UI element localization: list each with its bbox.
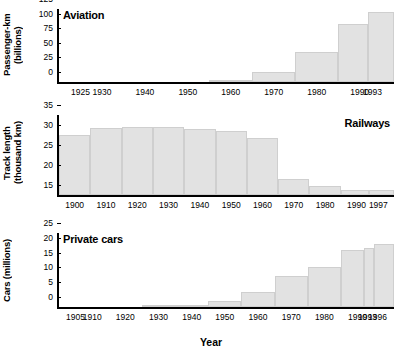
- x-axis-tick-label: 1970: [282, 309, 301, 322]
- x-axis-tick-label: 1960: [253, 197, 272, 210]
- chart-title-private-cars: Private cars: [63, 233, 123, 245]
- multi-panel-bar-chart-figure: Passenger-km (billions) Aviation 0255075…: [0, 0, 402, 360]
- bar: [368, 12, 394, 82]
- x-axis-tick-label: 1980: [315, 309, 334, 322]
- plot-area-railways: Railways 1520253035190019101920193019401…: [57, 115, 394, 197]
- y-axis-tick-label: 10: [44, 262, 57, 272]
- x-axis-tick-label: 1980: [316, 197, 335, 210]
- bar: [364, 248, 374, 307]
- bar: [208, 301, 241, 308]
- x-axis-tick-label: 1950: [222, 197, 241, 210]
- x-axis-tick-label: 1980: [307, 84, 326, 97]
- y-axis-tick-label: 25: [44, 140, 57, 150]
- x-axis-tick-label: 1930: [159, 197, 178, 210]
- x-axis-tick-label: 1970: [264, 84, 283, 97]
- y-axis-tick-label: 100: [39, 9, 57, 19]
- x-axis-tick-label: 1990: [347, 197, 366, 210]
- y-axis-tick-label: 0: [48, 292, 57, 302]
- bar: [142, 305, 175, 307]
- y-axis-label-private-cars: Cars (millions): [2, 228, 20, 314]
- y-axis-tick-label: 25: [44, 218, 57, 228]
- x-axis-tick-label: 1920: [128, 197, 147, 210]
- y-axis-tick-label: 20: [44, 160, 57, 170]
- bar: [153, 127, 184, 195]
- y-axis-tick-label: 5: [48, 277, 57, 287]
- bar: [275, 276, 308, 307]
- bar: [241, 292, 274, 307]
- bar: [122, 127, 153, 195]
- bar: [308, 267, 341, 307]
- bar: [252, 72, 295, 82]
- bar: [278, 179, 309, 195]
- x-axis-tick-label: 1910: [83, 309, 102, 322]
- x-axis-tick-label: 1960: [221, 84, 240, 97]
- x-axis-tick-label: 1920: [116, 309, 135, 322]
- y-axis-tick-label: 35: [44, 100, 57, 110]
- bar: [341, 190, 369, 195]
- y-axis-label-aviation: Passenger-km (billions): [2, 6, 24, 84]
- bar: [369, 190, 394, 195]
- x-axis-tick-label: 1930: [149, 309, 168, 322]
- y-axis-tick-label: 15: [44, 180, 57, 190]
- x-axis-tick-label: 1900: [65, 197, 84, 210]
- y-axis-tick-label: 25: [44, 52, 57, 62]
- x-axis-title: Year: [10, 336, 402, 348]
- x-axis-tick-label: 1996: [368, 309, 387, 322]
- bar: [374, 244, 394, 307]
- x-axis-tick-label: 1997: [369, 197, 388, 210]
- x-axis-tick-label: 1940: [190, 197, 209, 210]
- y-axis-tick-label: 15: [44, 248, 57, 258]
- bar: [216, 131, 247, 195]
- x-axis-tick-label: 1940: [182, 309, 201, 322]
- x-axis-tick-label: 1960: [249, 309, 268, 322]
- chart-panel-private-cars: Cars (millions) Private cars 05101520251…: [0, 228, 402, 360]
- y-axis-tick-label: 125: [39, 0, 57, 4]
- chart-title-railways: Railways: [345, 117, 390, 129]
- y-axis-tick-label: 0: [48, 67, 57, 77]
- x-axis-tick-label: 1993: [363, 84, 382, 97]
- plot-area-aviation: Aviation 0255075100125192519301940195019…: [57, 9, 394, 84]
- y-axis-tick-label: 30: [44, 120, 57, 130]
- chart-panel-railways: Track length (thousand km) Railways 1520…: [0, 110, 402, 215]
- x-axis-tick-label: 1950: [178, 84, 197, 97]
- x-axis-tick-label: 1910: [96, 197, 115, 210]
- y-axis-tick-label: 50: [44, 38, 57, 48]
- bar: [295, 52, 338, 82]
- chart-panel-aviation: Passenger-km (billions) Aviation 0255075…: [0, 4, 402, 100]
- bar: [309, 186, 340, 195]
- bar: [175, 305, 208, 307]
- bar: [59, 135, 90, 195]
- bar-series-aviation: [59, 9, 394, 82]
- x-axis-tick-label: 1930: [92, 84, 111, 97]
- y-axis-label-railways: Track length (thousand km): [2, 112, 24, 194]
- chart-title-aviation: Aviation: [63, 9, 104, 21]
- plot-area-private-cars: Private cars 051015202519051910192019301…: [57, 233, 394, 309]
- bar: [184, 129, 215, 195]
- bar: [90, 128, 121, 195]
- x-axis-tick-label: 1925: [71, 84, 90, 97]
- bar: [338, 24, 368, 82]
- bar: [247, 138, 278, 195]
- x-axis-tick-label: 1970: [284, 197, 303, 210]
- x-axis-tick-label: 1950: [215, 309, 234, 322]
- x-axis-tick-label: 1940: [135, 84, 154, 97]
- y-axis-tick-label: 20: [44, 233, 57, 243]
- y-axis-tick-label: 75: [44, 23, 57, 33]
- bar: [209, 80, 252, 82]
- bar: [341, 250, 364, 307]
